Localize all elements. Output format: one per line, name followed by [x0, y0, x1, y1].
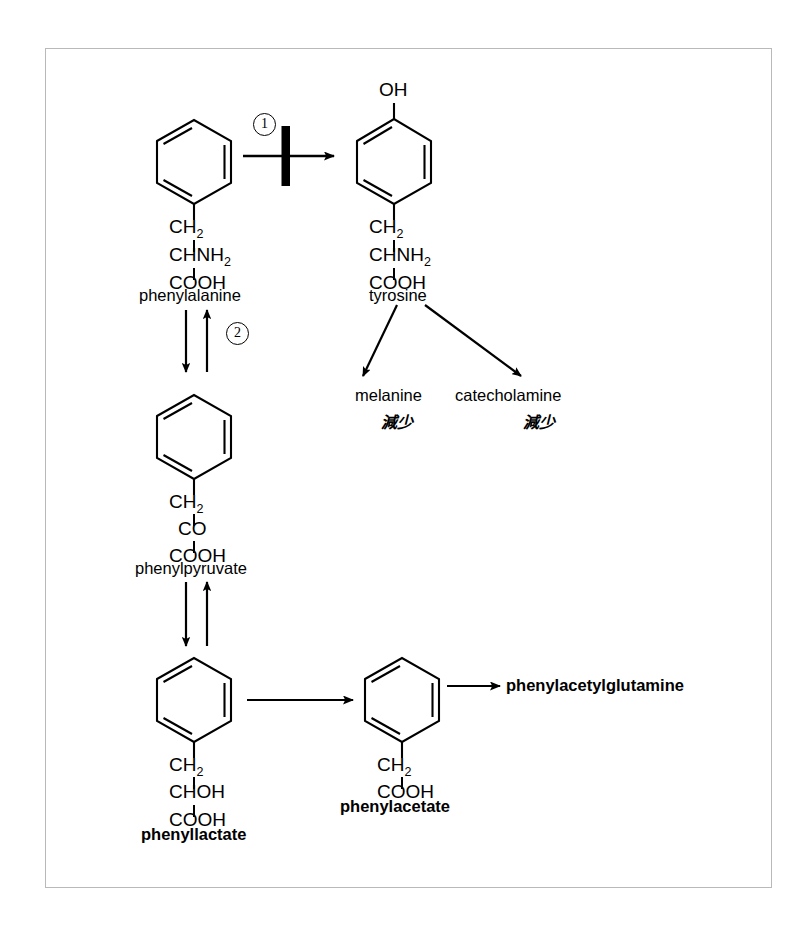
- tyrosine-oh: OH: [379, 79, 408, 101]
- phenylacetate-ch2: CH2: [377, 754, 411, 779]
- tyrosine-to-catecholamine-arrow: [425, 305, 521, 376]
- catecholamine-label: catecholamine: [455, 386, 561, 405]
- phenyllactate-label: phenyllactate: [141, 825, 246, 844]
- phenylpyruvate-benzene-ring: [157, 395, 231, 495]
- blocked-reaction-arrow-1: [243, 126, 334, 186]
- phenyllactate-ch2: CH2: [169, 754, 203, 779]
- phenylpyruvate-label: phenylpyruvate: [135, 559, 247, 578]
- step-2-marker: 2: [226, 322, 249, 345]
- phenylalanine-label: phenylalanine: [139, 286, 241, 305]
- phenylpyruvate-co: CO: [178, 518, 207, 540]
- phenylalanine-benzene-ring: [157, 120, 231, 220]
- phenyllactate-choh: CHOH: [169, 781, 225, 803]
- tyrosine-to-melanine-arrow: [363, 305, 397, 376]
- phenylpyruvate-ch2: CH2: [169, 491, 203, 516]
- melanine-label: melanine: [355, 386, 422, 405]
- phenyllactate-benzene-ring: [157, 658, 231, 758]
- phenylalanine-ch2: CH2: [169, 216, 203, 241]
- tyrosine-chnh2: CHNH2: [369, 244, 431, 269]
- phenylacetate-benzene-ring: [365, 658, 439, 758]
- melanine-decrease-annotation: 減少: [381, 409, 413, 433]
- tyrosine-label: tyrosine: [369, 286, 427, 305]
- phenylalanine-chnh2: CHNH2: [169, 244, 231, 269]
- diagram-page: 1 2 CH2 CHNH2 COOH phenylalanine OH CH2 …: [0, 0, 805, 934]
- catecholamine-decrease-annotation: 減少: [523, 409, 555, 433]
- phenylacetate-label: phenylacetate: [340, 797, 450, 816]
- tyrosine-benzene-ring: [357, 103, 431, 220]
- phenylacetylglutamine-label: phenylacetylglutamine: [506, 676, 684, 695]
- tyrosine-ch2: CH2: [369, 216, 403, 241]
- step-1-marker: 1: [253, 113, 276, 136]
- reaction-block-bar: [282, 126, 291, 186]
